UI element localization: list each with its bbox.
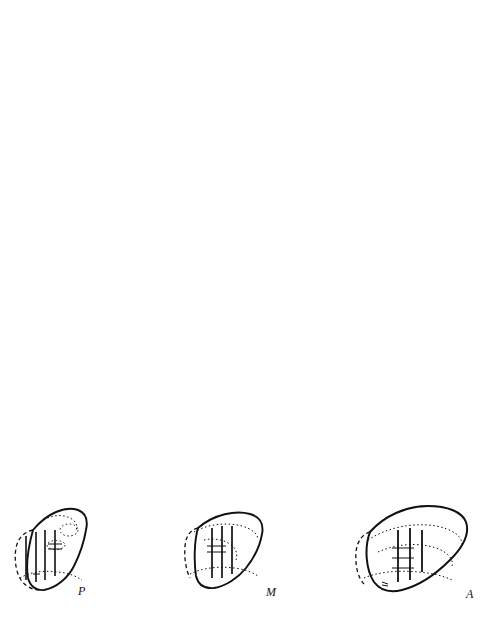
anatomy-diagram-M	[185, 513, 263, 589]
figure-root: P M A	[0, 0, 496, 638]
anatomy-label-P: P	[77, 584, 86, 598]
anatomy-diagram-A	[356, 506, 467, 591]
anatomical-diagram-row: P M A	[0, 490, 496, 638]
anatomy-label-A: A	[465, 587, 474, 601]
anatomy-label-M: M	[265, 585, 277, 599]
anatomy-diagram-P	[15, 509, 86, 590]
contour-map-grid	[0, 0, 496, 500]
